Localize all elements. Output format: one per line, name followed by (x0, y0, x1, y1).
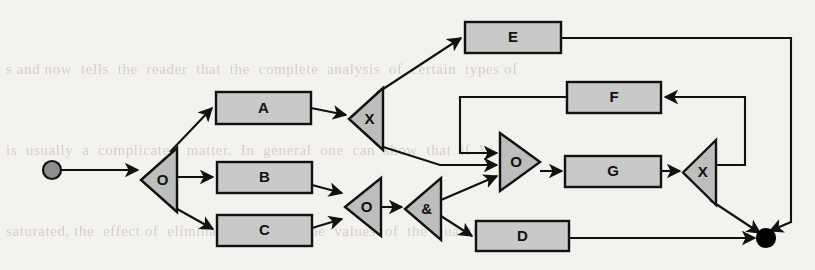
edge-E-to-end (561, 38, 791, 231)
node-box-a[interactable]: A (216, 92, 311, 124)
diagram-canvas: s and now tells the reader that the comp… (0, 0, 815, 270)
node-box-label-c: C (259, 221, 270, 238)
start-node[interactable] (43, 161, 61, 179)
node-box-label-f: F (609, 88, 618, 105)
edge-or1-to-A (170, 108, 212, 152)
gate-g-or-3[interactable]: O (500, 133, 540, 191)
gate-label-g-xor-2: X (698, 163, 708, 180)
node-box-label-b: B (259, 168, 270, 185)
gate-g-and-1[interactable]: & (405, 178, 441, 240)
gate-label-g-xor-1: X (364, 110, 374, 127)
edge-B-to-or2 (312, 185, 342, 193)
edge-A-to-xor1 (311, 108, 346, 115)
edge-xor1-to-or3 (377, 145, 497, 165)
node-box-b[interactable]: B (217, 162, 312, 193)
gate-g-xor-2[interactable]: X (683, 140, 716, 205)
node-box-c[interactable]: C (217, 215, 312, 246)
node-box-g[interactable]: G (565, 156, 661, 187)
node-box-label-a: A (258, 99, 269, 116)
gate-g-or-2[interactable]: O (345, 178, 381, 236)
gate-g-or-1[interactable]: O (141, 148, 177, 212)
gate-label-g-or-3: O (510, 153, 522, 170)
edge-and1-to-or3 (441, 176, 497, 200)
edge-xor2-to-end (710, 200, 760, 233)
node-box-f[interactable]: F (567, 82, 661, 113)
end-node[interactable] (757, 229, 775, 247)
node-box-label-e: E (508, 28, 518, 45)
gate-label-g-and-1: & (421, 200, 432, 217)
edge-xor1-to-E (377, 38, 461, 93)
edge-and1-to-D (441, 216, 472, 236)
node-box-e[interactable]: E (465, 22, 561, 53)
gate-label-g-or-2: O (361, 198, 373, 215)
node-box-label-g: G (607, 162, 619, 179)
gate-label-g-or-1: O (157, 171, 169, 188)
edge-C-to-or2 (312, 219, 342, 228)
diagram-svg: ABCDEFGOXO&OX (0, 0, 815, 270)
node-box-label-d: D (517, 227, 528, 244)
node-layer: ABCDEFGOXO&OX (43, 22, 775, 251)
gate-g-xor-1[interactable]: X (349, 88, 383, 150)
node-box-d[interactable]: D (476, 221, 569, 251)
